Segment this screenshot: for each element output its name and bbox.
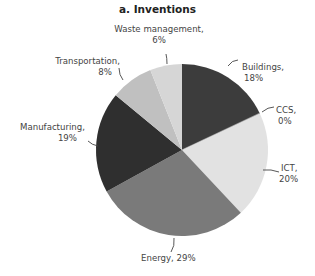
leader-line [262,107,274,112]
label-manufacturing: Manufacturing, 19% [15,122,85,144]
label-ccs: CCS, 0% [276,105,296,127]
leader-line [166,54,167,64]
label-buildings: Buildings, 18% [242,62,284,84]
label-waste-management: Waste management, 6% [114,24,204,46]
leader-line [171,238,174,252]
label-transportation: Transportation, 8% [55,56,120,78]
leader-line [228,60,238,66]
label-energy: Energy, 29% [141,253,196,264]
label-ict: ICT, 20% [281,163,298,185]
